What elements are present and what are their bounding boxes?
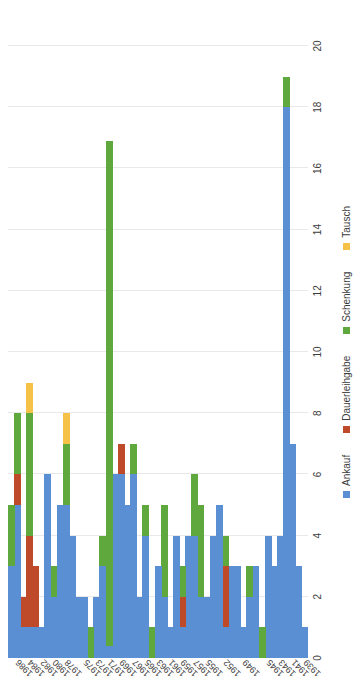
bar-segment-ankauf	[179, 627, 186, 658]
value-tick-label: 16	[312, 163, 323, 174]
bar-row	[246, 566, 253, 658]
bar-segment-ankauf	[118, 474, 125, 658]
bar-segment-dauerleihgabe	[26, 536, 33, 628]
value-tick-label: 8	[312, 410, 323, 416]
bar-segment-ankauf	[57, 505, 64, 658]
gridline	[8, 167, 308, 168]
bar-segment-schenkung	[246, 566, 253, 597]
bar-segment-schenkung	[222, 536, 229, 567]
bar-segment-ankauf	[216, 505, 223, 658]
value-tick-label: 10	[312, 346, 323, 357]
bar-segment-schenkung	[259, 627, 266, 658]
bar-segment-ankauf	[50, 597, 57, 658]
bar-row	[38, 627, 45, 658]
value-tick-label: 0	[312, 655, 323, 661]
bar-segment-schenkung	[179, 566, 186, 597]
gridline	[8, 290, 308, 291]
legend-label: Ankauf	[341, 455, 352, 486]
bar-row	[87, 627, 94, 658]
legend-item-ankauf[interactable]: Ankauf	[341, 455, 352, 498]
bar-row	[210, 536, 217, 658]
bar-row	[106, 141, 113, 658]
bar-row	[142, 505, 149, 658]
bar-segment-ankauf	[191, 536, 198, 658]
bar-row	[50, 566, 57, 658]
bar-segment-ankauf	[185, 536, 192, 658]
bar-segment-schenkung	[50, 566, 57, 597]
gridline	[8, 535, 308, 536]
bar-segment-schenkung	[142, 505, 149, 536]
bar-segment-dauerleihgabe	[32, 566, 39, 627]
bar-segment-ankauf	[155, 566, 162, 658]
bar-segment-ankauf	[136, 597, 143, 658]
rotated-figure: 1939194119431945194919521955195719591961…	[0, 0, 362, 698]
bar-row	[8, 505, 15, 658]
bar-row	[222, 536, 229, 658]
bar-row	[259, 627, 266, 658]
legend-item-dauerleihgabe[interactable]: Dauerleihgabe	[341, 356, 352, 433]
bar-segment-ankauf	[301, 627, 308, 658]
bar-segment-ankauf	[271, 566, 278, 658]
bar-segment-dauerleihgabe	[118, 444, 125, 475]
bar-segment-ankauf	[142, 536, 149, 658]
legend-item-tausch[interactable]: Tausch	[341, 206, 352, 250]
bar-segment-ankauf	[32, 627, 39, 658]
bar-segment-ankauf	[234, 566, 241, 658]
bar-row	[26, 383, 33, 658]
bar-row	[197, 505, 204, 658]
bar-row	[112, 474, 119, 658]
bar-segment-schenkung	[26, 413, 33, 535]
bar-row	[155, 566, 162, 658]
bar-row	[295, 566, 302, 658]
bar-segment-ankauf	[75, 597, 82, 658]
bar-row	[63, 413, 70, 658]
bar-segment-ankauf	[222, 627, 229, 658]
bar-row	[32, 566, 39, 658]
value-tick-label: 12	[312, 285, 323, 296]
bar-row	[118, 444, 125, 658]
bar-segment-schenkung	[87, 627, 94, 658]
bar-segment-schenkung	[191, 474, 198, 535]
gridline	[8, 412, 308, 413]
bar-row	[44, 474, 51, 658]
value-tick-label: 2	[312, 594, 323, 600]
bar-row	[265, 536, 272, 658]
bar-segment-ankauf	[44, 474, 51, 658]
bar-segment-ankauf	[210, 536, 217, 658]
bar-segment-ankauf	[14, 505, 21, 658]
category-tick-label: 1949	[240, 657, 261, 678]
bar-row	[124, 505, 131, 658]
bar-row	[57, 505, 64, 658]
bar-row	[277, 536, 284, 658]
bar-segment-ankauf	[63, 505, 70, 658]
bar-segment-ankauf	[265, 536, 272, 658]
bar-row	[185, 536, 192, 658]
legend-label: Tausch	[341, 206, 352, 238]
gridline	[8, 351, 308, 352]
bar-segment-schenkung	[283, 77, 290, 108]
gridline	[8, 106, 308, 107]
bar-segment-ankauf	[69, 536, 76, 658]
bar-row	[81, 597, 88, 658]
legend-label: Dauerleihgabe	[341, 356, 352, 421]
bar-segment-dauerleihgabe	[14, 474, 21, 505]
value-tick-label: 6	[312, 472, 323, 478]
legend-swatch-icon	[343, 243, 350, 250]
bar-segment-ankauf	[99, 566, 106, 658]
bar-segment-schenkung	[148, 627, 155, 658]
bar-row	[99, 536, 106, 658]
legend-item-schenkung[interactable]: Schenkung	[341, 272, 352, 334]
bar-segment-ankauf	[228, 566, 235, 658]
bar-segment-ankauf	[130, 474, 137, 658]
gridline	[8, 45, 308, 46]
bar-row	[14, 413, 21, 658]
value-tick-label: 14	[312, 224, 323, 235]
bar-segment-ankauf	[246, 597, 253, 658]
bar-segment-schenkung	[99, 536, 106, 567]
gridline	[8, 473, 308, 474]
bar-segment-ankauf	[20, 627, 27, 658]
bar-segment-ankauf	[112, 474, 119, 658]
bar-segment-schenkung	[63, 444, 70, 505]
bar-segment-ankauf	[173, 536, 180, 658]
bar-segment-ankauf	[106, 646, 113, 658]
